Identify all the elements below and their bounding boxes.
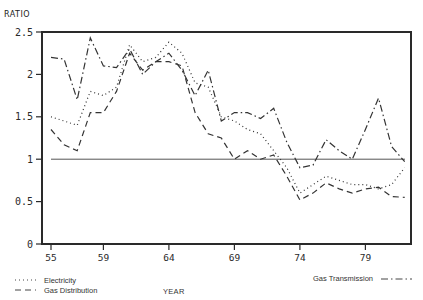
plot-frame	[42, 32, 411, 244]
series-gas-transmission	[51, 38, 405, 168]
legend-gas-distribution: Gas Distribution	[44, 286, 97, 295]
y-tick-label: 0.5	[15, 196, 33, 207]
y-axis: 00.511.522.5	[15, 27, 42, 250]
y-tick-label: 1	[27, 154, 33, 165]
y-tick-label: 2.5	[15, 27, 33, 38]
legend-gas-transmission: Gas Transmission	[313, 274, 373, 283]
series-gas-distribution	[51, 53, 405, 200]
x-tick-label: 79	[360, 252, 372, 263]
x-tick-label: 74	[294, 252, 306, 263]
y-tick-label: 0	[27, 239, 33, 250]
legend-electricity: Electricity	[44, 276, 76, 285]
series-electricity	[51, 42, 405, 193]
x-tick-label: 64	[163, 252, 175, 263]
x-tick-label: 69	[229, 252, 241, 263]
x-tick-label: 55	[45, 252, 56, 263]
line-chart: 00.511.522.5 555964697479	[0, 0, 423, 300]
y-tick-label: 1.5	[15, 111, 33, 122]
y-tick-label: 2	[27, 69, 33, 80]
series-lines	[51, 38, 405, 200]
x-axis-title: YEAR	[163, 287, 185, 296]
x-tick-label: 59	[98, 252, 110, 263]
x-axis: 555964697479	[45, 244, 371, 263]
